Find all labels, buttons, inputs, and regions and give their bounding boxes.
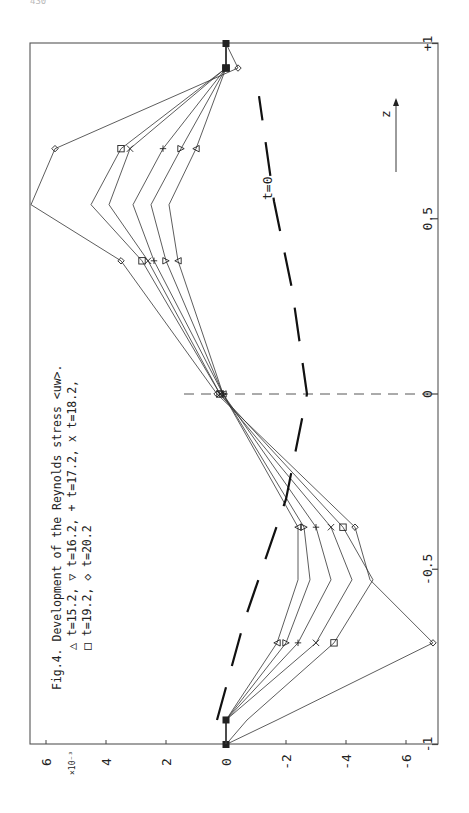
plus-marker-icon [151, 258, 157, 264]
z-axis-label: z [378, 110, 393, 118]
value-tick-label: 4 [99, 758, 114, 766]
value-tick-label: 2 [159, 758, 174, 766]
wall-square-marker-icon [223, 40, 230, 47]
z-tick-label: -0.5 [420, 554, 435, 585]
t0-label: t=0 [260, 177, 275, 200]
series-t-18-2 [109, 44, 352, 745]
z-arrow-icon [393, 98, 399, 172]
caption-line-1: Fig.4. Development of the Reynolds stres… [50, 365, 64, 690]
value-tick-label: -4 [339, 754, 354, 770]
series-t-17-2 [133, 44, 331, 745]
z-tick-label: -1 [420, 737, 435, 753]
z-tick-label: +1 [420, 36, 435, 52]
reynolds-stress-chart: 6420-2-4-6-1-0.500.5+1 z t=0 ×10⁻³ Fig.4… [0, 0, 469, 813]
x-marker-icon [313, 640, 319, 646]
x-marker-icon [127, 145, 133, 151]
value-scale-label: ×10⁻³ [68, 751, 77, 775]
value-tick-label: 0 [219, 758, 234, 766]
wall-square-marker-icon [223, 716, 230, 723]
x-marker-icon [145, 258, 151, 264]
value-tick-label: -2 [279, 754, 294, 770]
z-tick-label: 0.5 [420, 207, 435, 230]
axis-ticks: 6420-2-4-6-1-0.500.5+1 [39, 36, 438, 770]
plus-marker-icon [313, 524, 319, 530]
value-tick-label: 6 [39, 758, 54, 766]
caption-line-3: □ t=19.2, ◇ t=20.2 [80, 525, 94, 650]
wall-square-marker-icon [223, 65, 230, 72]
series-t-19-2 [91, 44, 373, 745]
x-marker-icon [328, 524, 334, 530]
caption-line-2: △ t=15.2, ▽ t=16.2, + t=17.2, x t=18.2, [65, 380, 79, 650]
value-tick-label: -6 [399, 754, 414, 770]
z-tick-label: 0 [420, 390, 435, 398]
